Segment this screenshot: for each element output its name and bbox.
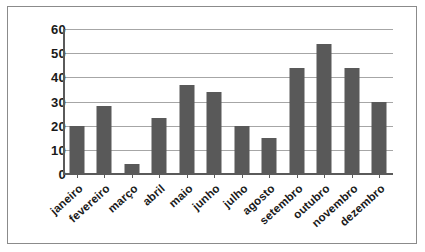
x-label-slot: abril (146, 179, 174, 241)
y-axis-tick-label: 60 (26, 23, 66, 36)
x-axis-tick-mark (159, 174, 160, 178)
bar-slot (311, 29, 339, 174)
y-axis-tick-label: 30 (26, 95, 66, 108)
bar-slot (338, 29, 366, 174)
y-axis-tick-label: 50 (26, 47, 66, 60)
bar-slot (201, 29, 229, 174)
bar-slot (228, 29, 256, 174)
bar[interactable] (97, 106, 112, 174)
bar-slot (256, 29, 284, 174)
x-axis-tick-mark (242, 174, 243, 178)
bars-group (63, 29, 393, 174)
bar[interactable] (262, 138, 277, 174)
bar[interactable] (234, 126, 249, 174)
bar-slot (283, 29, 311, 174)
bar-slot (63, 29, 91, 174)
y-axis-tick-label: 20 (26, 119, 66, 132)
bar[interactable] (372, 102, 387, 175)
y-axis-tick-label: 40 (26, 71, 66, 84)
x-axis-tick-mark (104, 174, 105, 178)
x-label-slot: junho (201, 179, 229, 241)
x-axis-tick-mark (324, 174, 325, 178)
bar[interactable] (69, 126, 84, 174)
bar-slot (146, 29, 174, 174)
bar[interactable] (179, 85, 194, 174)
bar[interactable] (152, 118, 167, 174)
x-label-slot: dezembro (366, 179, 394, 241)
y-axis-tick-label: 0 (26, 168, 66, 181)
bar-slot (173, 29, 201, 174)
x-axis-tick-mark (379, 174, 380, 178)
bar-slot (91, 29, 119, 174)
bar[interactable] (317, 44, 332, 175)
bar[interactable] (289, 68, 304, 174)
x-axis-tick-mark (352, 174, 353, 178)
x-axis-tick-mark (132, 174, 133, 178)
x-axis-tick-mark (77, 174, 78, 178)
x-label-slot: março (118, 179, 146, 241)
bar[interactable] (207, 92, 222, 174)
bar-slot (366, 29, 394, 174)
chart-frame: 0102030405060 janeirofevereiromarçoabril… (7, 6, 417, 244)
x-axis-tick-labels: janeirofevereiromarçoabrilmaiojunhojulho… (63, 179, 393, 241)
y-axis-tick-label: 10 (26, 143, 66, 156)
chart-plot-area: 0102030405060 janeirofevereiromarçoabril… (8, 7, 418, 245)
bar[interactable] (344, 68, 359, 174)
bar[interactable] (124, 164, 139, 174)
x-axis-tick-mark (297, 174, 298, 178)
x-axis-tick-mark (187, 174, 188, 178)
bar-slot (118, 29, 146, 174)
x-axis-tick-mark (214, 174, 215, 178)
x-axis-tick-mark (269, 174, 270, 178)
